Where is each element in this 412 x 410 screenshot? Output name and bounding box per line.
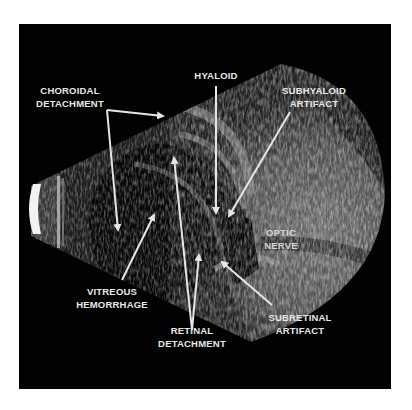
label-subretinal-artifact: SUBRETINAL ARTIFACT xyxy=(263,312,337,337)
label-line: DETACHMENT xyxy=(33,98,107,111)
label-line: NERVE xyxy=(258,240,304,253)
label-retinal-detachment: RETINAL DETACHMENT xyxy=(153,325,231,350)
label-line: SUBRETINAL xyxy=(263,312,337,325)
arrow-choroidal-top xyxy=(107,110,163,116)
label-line: RETINAL xyxy=(153,325,231,338)
label-optic-nerve: OPTIC NERVE xyxy=(258,227,304,252)
label-hyaloid: HYALOID xyxy=(189,70,243,83)
label-choroidal-detachment: CHOROIDAL DETACHMENT xyxy=(33,85,107,110)
label-line: DETACHMENT xyxy=(153,338,231,351)
near-field-band xyxy=(57,176,60,248)
label-line: ARTIFACT xyxy=(263,325,337,338)
label-line: HEMORRHAGE xyxy=(72,299,152,312)
label-subhyaloid-artifact: SUBHYALOID ARTIFACT xyxy=(278,85,350,110)
label-vitreous-hemorrhage: VITREOUS HEMORRHAGE xyxy=(72,286,152,311)
ultrasound-figure: CHOROIDAL DETACHMENT HYALOID SUBHYALOID … xyxy=(19,24,391,389)
label-line: HYALOID xyxy=(189,70,243,83)
label-line: OPTIC xyxy=(258,227,304,240)
label-line: ARTIFACT xyxy=(278,98,350,111)
label-line: CHOROIDAL xyxy=(33,85,107,98)
label-line: VITREOUS xyxy=(72,286,152,299)
label-line: SUBHYALOID xyxy=(278,85,350,98)
